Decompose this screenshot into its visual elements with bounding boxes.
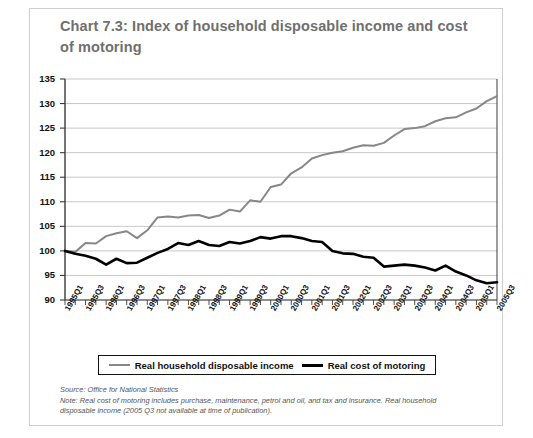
y-axis-ticks	[60, 79, 65, 300]
legend-item-income: Real household disposable income	[109, 360, 294, 371]
gridlines	[65, 79, 497, 300]
legend-item-motoring: Real cost of motoring	[302, 360, 426, 371]
series-lines	[65, 96, 497, 283]
y-axis-label: 135	[33, 73, 55, 84]
y-axis-label: 90	[33, 294, 55, 305]
y-axis-label: 110	[33, 196, 55, 207]
legend-label-income: Real household disposable income	[135, 360, 294, 371]
chart-page: Chart 7.3: Index of household disposable…	[0, 0, 533, 438]
source-note: Source: Office for National Statistics	[60, 385, 472, 396]
methodology-note: Note: Real cost of motoring includes pur…	[60, 396, 472, 417]
y-axis-label: 125	[33, 122, 55, 133]
legend: Real household disposable income Real co…	[98, 355, 436, 375]
plot-border	[65, 79, 497, 300]
legend-swatch-motoring	[302, 364, 323, 367]
legend-swatch-income	[109, 364, 130, 366]
y-axis-label: 95	[33, 269, 55, 280]
y-axis-label: 115	[33, 171, 55, 182]
y-axis-label: 120	[33, 147, 55, 158]
legend-label-motoring: Real cost of motoring	[328, 360, 426, 371]
y-axis-label: 105	[33, 220, 55, 231]
y-axis-label: 100	[33, 245, 55, 256]
y-axis-label: 130	[33, 98, 55, 109]
footnotes: Source: Office for National Statistics N…	[60, 385, 472, 417]
